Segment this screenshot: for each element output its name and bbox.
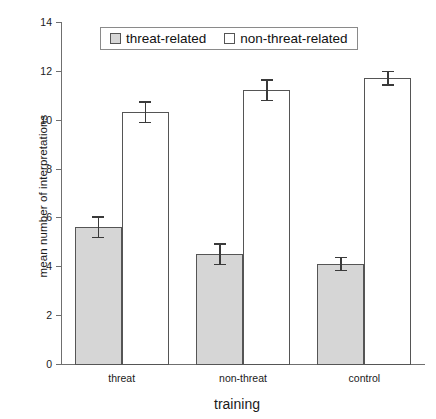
error-bar-stem xyxy=(219,243,221,265)
error-bar-stem xyxy=(145,101,147,123)
bar xyxy=(364,78,411,365)
y-tick-label: 6 xyxy=(46,211,52,223)
bar xyxy=(75,227,122,365)
y-tick-mark xyxy=(56,120,61,121)
error-bar-cap-top xyxy=(261,79,273,81)
y-tick-mark xyxy=(56,217,61,218)
y-axis-line xyxy=(61,22,62,365)
y-tick-label: 4 xyxy=(46,260,52,272)
error-bar-cap-top xyxy=(92,216,104,218)
y-tick-label: 0 xyxy=(46,358,52,370)
x-category-label: threat xyxy=(108,372,135,384)
y-tick-mark xyxy=(56,315,61,316)
error-bar-stem xyxy=(98,216,100,238)
y-tick-label: 2 xyxy=(46,309,52,321)
legend-entry: threat-related xyxy=(110,31,206,46)
y-tick-mark xyxy=(56,71,61,72)
error-bar-cap-top xyxy=(139,101,151,103)
legend-swatch-icon xyxy=(224,33,235,44)
error-bar-cap-top xyxy=(382,71,394,73)
legend-label: threat-related xyxy=(126,31,206,46)
x-category-label: non-threat xyxy=(219,372,267,384)
y-tick-mark xyxy=(56,169,61,170)
y-tick-label: 12 xyxy=(40,65,52,77)
plot-area: 02468101214 threatnon-threatcontrol xyxy=(61,22,425,365)
y-axis-title: mean number of interpretations xyxy=(37,56,49,336)
error-bar-cap-top xyxy=(335,257,347,259)
bar xyxy=(243,90,290,365)
bar-chart-figure: mean number of interpretations training … xyxy=(0,0,436,419)
error-bar-stem xyxy=(266,79,268,101)
error-bar-cap-bottom xyxy=(261,100,273,102)
error-bar-cap-bottom xyxy=(335,270,347,272)
legend-entry: non-threat-related xyxy=(224,31,347,46)
legend-label: non-threat-related xyxy=(240,31,347,46)
error-bar-cap-bottom xyxy=(214,264,226,266)
x-axis-title: training xyxy=(48,396,426,412)
chart-legend: threat-relatednon-threat-related xyxy=(100,27,358,50)
x-category-label: control xyxy=(349,372,381,384)
y-tick-mark xyxy=(56,266,61,267)
error-bar-cap-bottom xyxy=(92,237,104,239)
y-tick-label: 14 xyxy=(40,16,52,28)
bar xyxy=(122,112,169,365)
legend-swatch-icon xyxy=(110,33,121,44)
bar xyxy=(196,254,243,365)
y-tick-mark xyxy=(56,364,61,365)
y-tick-label: 8 xyxy=(46,163,52,175)
error-bar-cap-bottom xyxy=(139,122,151,124)
y-tick-label: 10 xyxy=(40,114,52,126)
error-bar-cap-bottom xyxy=(382,84,394,86)
error-bar-cap-top xyxy=(214,243,226,245)
bar xyxy=(317,264,364,365)
y-tick-mark xyxy=(56,22,61,23)
